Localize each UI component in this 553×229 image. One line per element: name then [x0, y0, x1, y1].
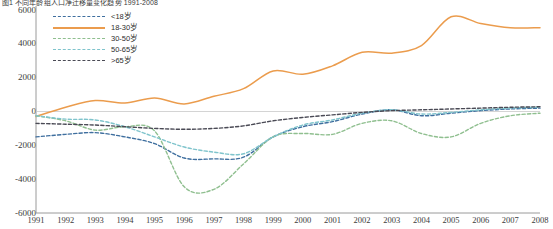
legend-item-1[interactable]: 18-30岁	[53, 22, 163, 33]
legend-item-2[interactable]: 30-50岁	[53, 33, 163, 44]
legend-item-4[interactable]: >65岁	[53, 55, 163, 66]
legend-swatch-icon	[53, 49, 105, 50]
legend-item-0[interactable]: <18岁	[53, 11, 163, 22]
legend-label: 50-65岁	[111, 44, 137, 55]
legend-label: 18-30岁	[111, 22, 137, 33]
series-line-4	[36, 107, 540, 129]
series-line-2	[36, 113, 540, 193]
legend-item-3[interactable]: 50-65岁	[53, 44, 163, 55]
legend-swatch-icon	[53, 16, 105, 17]
legend-swatch-icon	[53, 60, 105, 61]
legend-label: >65岁	[111, 55, 131, 66]
legend-label: <18岁	[111, 11, 131, 22]
legend-swatch-icon	[53, 38, 105, 39]
chart-legend: <18岁18-30岁30-50岁50-65岁>65岁	[53, 11, 163, 66]
legend-swatch-icon	[53, 27, 105, 29]
legend-label: 30-50岁	[111, 33, 137, 44]
